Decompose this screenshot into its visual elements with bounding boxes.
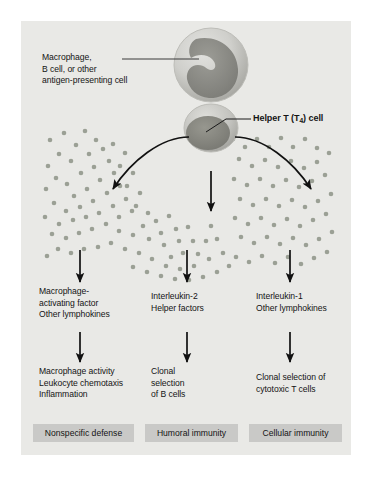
outcome-label-nonspecific-defense: Nonspecific defense (45, 428, 122, 438)
outcome-label-cellular-immunity: Cellular immunity (263, 428, 329, 438)
macrophage-callout-line2-wrap: B cell, or other (42, 64, 97, 75)
mediator-center-line-2: Helper factors (151, 303, 204, 314)
arrow-curve-left (113, 137, 189, 189)
outcome-box-humoral-immunity[interactable]: Humoral immunity (145, 424, 238, 442)
helper-t-cell (184, 104, 238, 152)
effect-center-line-2: selection (151, 378, 184, 389)
effect-center-line-1: Clonal (151, 366, 175, 377)
helper-t-text-after: ) cell (303, 113, 323, 123)
immune-response-diagram: Macrophage, B cell, or other antigen-pre… (21, 21, 351, 455)
macrophage-callout: Macrophage, (42, 52, 92, 63)
macrophage-callout-line-2: B cell, or other (42, 64, 97, 74)
effect-left-line-1: Macrophage activity (39, 366, 114, 377)
effect-right-line-1: Clonal selection of (256, 372, 325, 383)
macrophage-callout-line-1: Macrophage, (42, 52, 92, 62)
helper-t-callout: Helper T (T4) cell (253, 113, 323, 126)
macrophage-callout-line3-wrap: antigen-presenting cell (42, 75, 127, 86)
outcome-box-nonspecific-defense[interactable]: Nonspecific defense (33, 424, 134, 442)
helper-t-text-before: Helper T (T (253, 113, 299, 123)
effect-left-line-2: Leukocyte chemotaxis (39, 378, 123, 389)
effect-center-line-3: of B cells (151, 389, 185, 400)
effect-left-line-3: Inflammation (39, 389, 88, 400)
mediator-left-line-1: Macrophage- (39, 286, 89, 297)
macrophage-cell (174, 28, 248, 102)
effect-right-line-2: cytotoxic T cells (256, 384, 316, 395)
outcome-label-humoral-immunity: Humoral immunity (157, 428, 226, 438)
macrophage-callout-line-3: antigen-presenting cell (42, 75, 127, 85)
outcome-box-cellular-immunity[interactable]: Cellular immunity (249, 424, 342, 442)
mediator-right-line-1: Interleukin-1 (256, 291, 303, 302)
mediator-left-line-3: Other lymphokines (39, 309, 110, 320)
arrow-curve-right (235, 137, 311, 189)
mediator-center-line-1: Interleukin-2 (151, 291, 198, 302)
mediator-left-line-2: activating factor (39, 298, 98, 309)
mediator-right-line-2: Other lymphokines (256, 303, 327, 314)
